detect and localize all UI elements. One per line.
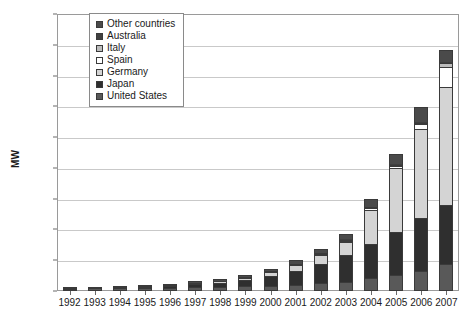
legend-swatch-icon [96, 21, 103, 28]
bar-segment [289, 272, 303, 286]
bar-segment [389, 167, 403, 169]
bar-segment [238, 279, 252, 281]
legend-item-label: Spain [107, 54, 133, 66]
bar-segment [364, 279, 378, 291]
bar-stack [364, 199, 378, 291]
bar-segment [188, 285, 202, 288]
x-axis-tick-mark [271, 291, 272, 295]
legend-swatch-icon [96, 69, 103, 76]
bar-segment [339, 283, 353, 291]
bar-segment [113, 288, 127, 289]
bar-stack [414, 107, 428, 291]
legend-item[interactable]: Spain [96, 54, 175, 66]
x-axis-tick-mark [95, 291, 96, 295]
y-axis-label: MW [10, 150, 21, 168]
bar-segment [113, 286, 127, 287]
bar-segment [163, 284, 177, 285]
legend-item[interactable]: Japan [96, 78, 175, 90]
bar-stack [289, 260, 303, 291]
bar-segment [138, 285, 152, 286]
x-axis-tick-mark [396, 291, 397, 295]
bar-segment [238, 275, 252, 277]
bar-segment [364, 211, 378, 245]
x-axis-tick-mark [145, 291, 146, 295]
x-axis-tick-mark [245, 291, 246, 295]
bar-stack [389, 154, 403, 291]
bar-segment [88, 287, 102, 288]
bar-segment [439, 62, 453, 65]
x-axis-tick-mark [170, 291, 171, 295]
bar-segment [213, 284, 227, 288]
bar-segment [414, 125, 428, 130]
bar-segment [264, 277, 278, 287]
legend-item-label: United States [107, 90, 167, 102]
bar-segment [364, 245, 378, 280]
legend-item[interactable]: Italy [96, 42, 175, 54]
legend-item[interactable]: Other countries [96, 18, 175, 30]
x-axis-tick-mark [421, 291, 422, 295]
bar-segment [339, 234, 353, 240]
x-axis-tick-mark [120, 291, 121, 295]
bar-segment [439, 50, 453, 62]
legend-item-label: Germany [107, 66, 148, 78]
bar-stack [314, 249, 328, 291]
legend-item[interactable]: Australia [96, 30, 175, 42]
bar-segment [339, 239, 353, 240]
bar-segment [63, 287, 77, 288]
bar-segment [364, 207, 378, 209]
bar-segment [439, 64, 453, 68]
bar-segment [389, 166, 403, 167]
bar-segment [163, 286, 177, 287]
bar-segment [339, 242, 353, 243]
bar-segment [439, 68, 453, 88]
bar-segment [264, 269, 278, 272]
x-axis-tick-mark [371, 291, 372, 295]
legend-item-label: Australia [107, 30, 146, 42]
bar-stack [238, 275, 252, 291]
x-axis-tick-label: 2007 [431, 297, 461, 308]
bar-stack [163, 284, 177, 291]
bar-segment [264, 271, 278, 272]
legend-swatch-icon [96, 33, 103, 40]
bar-stack [339, 234, 353, 291]
bar-segment [188, 284, 202, 285]
bar-segment [389, 154, 403, 164]
bar-segment [439, 265, 453, 291]
bar-segment [414, 219, 428, 272]
bar-segment [414, 124, 428, 126]
x-axis-tick-mark [195, 291, 196, 295]
bar-segment [314, 265, 328, 285]
bar-segment [213, 282, 227, 284]
bar-segment [188, 281, 202, 283]
bar-segment [289, 266, 303, 272]
x-axis-tick-mark [321, 291, 322, 295]
bar-stack [439, 50, 453, 291]
bar-segment [389, 164, 403, 166]
bar-segment [389, 233, 403, 277]
bar-segment [289, 264, 303, 265]
chart-legend: Other countriesAustraliaItalySpainGerman… [89, 13, 184, 107]
bar-segment [364, 208, 378, 209]
legend-item-label: Italy [107, 42, 125, 54]
bar-segment [364, 199, 378, 206]
legend-item-label: Other countries [107, 18, 175, 30]
legend-swatch-icon [96, 57, 103, 64]
legend-item[interactable]: Germany [96, 66, 175, 78]
bar-segment [138, 288, 152, 289]
bar-segment [314, 249, 328, 253]
bar-segment [213, 279, 227, 281]
bar-segment [414, 272, 428, 291]
bar-segment [163, 287, 177, 289]
bar-segment [314, 256, 328, 265]
legend-swatch-icon [96, 45, 103, 52]
bar-segment [389, 169, 403, 232]
bar-segment [414, 130, 428, 219]
bar-stack [213, 279, 227, 291]
bar-segment [439, 206, 453, 265]
legend-item[interactable]: United States [96, 90, 175, 102]
bar-segment [389, 276, 403, 291]
bar-segment [264, 273, 278, 277]
stacked-bar-chart: MW 0100020003000400050006000700080009000… [0, 0, 464, 318]
bar-segment [439, 88, 453, 206]
bar-segment [414, 122, 428, 124]
